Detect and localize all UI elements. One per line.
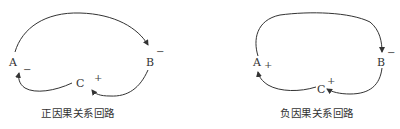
node-b-polarity: − <box>156 47 164 57</box>
node-b-polarity: − <box>387 48 395 58</box>
node-c: C <box>317 84 325 95</box>
node-a-polarity: + <box>264 60 272 70</box>
positive-loop-diagram: A − B − C + 正因果关系回路 <box>0 0 200 129</box>
node-b: B <box>377 57 385 68</box>
node-c-polarity: + <box>327 76 335 86</box>
node-c-polarity: + <box>94 73 102 83</box>
node-b: B <box>146 57 154 68</box>
negative-loop-diagram: A + B − C + 负因果关系回路 <box>200 0 400 129</box>
negative-loop-caption: 负因果关系回路 <box>280 107 354 119</box>
node-a-polarity: − <box>23 65 31 75</box>
node-a: A <box>253 57 261 68</box>
node-c: C <box>76 78 84 89</box>
node-a: A <box>9 57 17 68</box>
positive-loop-caption: 正因果关系回路 <box>41 107 115 119</box>
